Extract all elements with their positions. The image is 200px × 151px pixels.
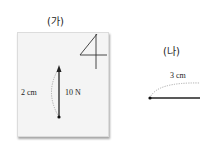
rotation-arc-na [150, 83, 200, 98]
corner-four-glyph [80, 34, 107, 69]
pivot-dot [57, 115, 60, 118]
distance-label-ga: 2 cm [21, 88, 37, 97]
force-arrow-head-icon [57, 65, 62, 72]
force-label-ga: 10 N [65, 88, 81, 97]
figure-na-heading: (나) [163, 43, 180, 58]
distance-label-na: 3 cm [170, 71, 186, 80]
pivot-dot-na [148, 96, 151, 99]
rotation-arc [52, 68, 60, 117]
